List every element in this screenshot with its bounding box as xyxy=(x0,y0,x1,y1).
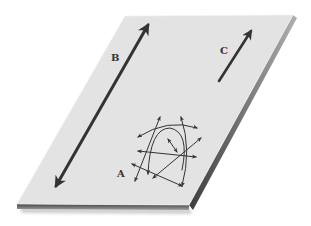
diagram-canvas: A B C xyxy=(0,0,311,226)
label-a: A xyxy=(116,168,125,179)
label-b: B xyxy=(111,52,119,63)
label-c: C xyxy=(220,45,228,56)
